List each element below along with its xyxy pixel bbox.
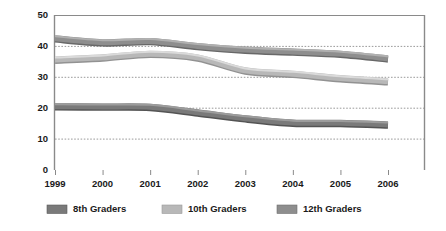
x-tick-label-2003: 2003 [235, 178, 256, 189]
x-tick-label-2000: 2000 [92, 178, 113, 189]
legend-label: 8th Graders [73, 203, 126, 214]
y-tick-label-40: 40 [37, 40, 48, 51]
x-tick-label-2005: 2005 [330, 178, 352, 189]
legend-swatch [162, 205, 182, 214]
y-tick-label-50: 50 [37, 9, 48, 20]
legend-label: 10th Graders [188, 203, 247, 214]
y-tick-label-30: 30 [37, 71, 48, 82]
chart-figure: 50403020100 1999200020012002200320042005… [0, 0, 446, 231]
x-tick-label-2004: 2004 [282, 178, 304, 189]
y-tick-label-20: 20 [37, 102, 48, 113]
legend-swatch [277, 205, 297, 214]
legend-swatch [47, 205, 67, 214]
x-tick-label-2001: 2001 [140, 178, 162, 189]
x-tick-label-1999: 1999 [44, 178, 65, 189]
legend-label: 12th Graders [303, 203, 362, 214]
x-tick-label-2002: 2002 [187, 178, 208, 189]
y-tick-label-0: 0 [43, 164, 48, 175]
x-tick-label-2006: 2006 [377, 178, 398, 189]
y-tick-label-10: 10 [37, 133, 48, 144]
chart-legend: 8th Graders10th Graders12th Graders [47, 203, 362, 214]
line-chart: 50403020100 1999200020012002200320042005… [0, 0, 446, 231]
